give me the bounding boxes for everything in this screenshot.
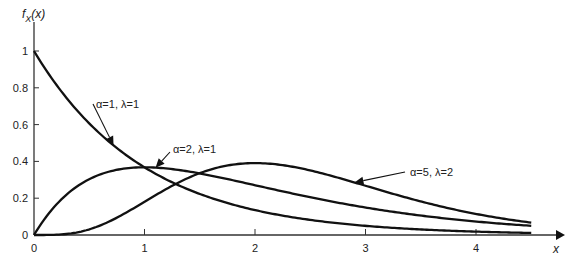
annotations: α=1, λ=1α=2, λ=1α=5, λ=2 xyxy=(93,98,453,185)
x-tick-label: 1 xyxy=(141,242,147,254)
x-tick-label: 3 xyxy=(362,242,368,254)
series-line-1 xyxy=(34,51,531,233)
y-tick-label: 0 xyxy=(22,229,28,241)
y-tick-label: 1 xyxy=(22,45,28,57)
y-ticks: 00.20.40.60.81 xyxy=(13,45,39,241)
x-tick-label: 4 xyxy=(473,242,479,254)
y-tick-label: 0.6 xyxy=(13,119,28,131)
annotation-label: α=5, λ=2 xyxy=(410,166,453,178)
y-axis-label: fX(x) xyxy=(22,7,45,24)
x-axis-label: x xyxy=(552,242,560,256)
y-tick-label: 0.2 xyxy=(13,192,28,204)
curves xyxy=(34,51,531,235)
x-axis-arrowhead xyxy=(556,230,565,240)
series-line-3 xyxy=(34,163,531,235)
x-tick-label: 0 xyxy=(31,242,37,254)
y-axis-label-arg: (x) xyxy=(31,7,45,21)
series-line-2 xyxy=(34,167,531,235)
axes xyxy=(34,22,565,240)
x-ticks: 01234 xyxy=(31,229,479,254)
y-tick-label: 0.4 xyxy=(13,155,28,167)
annotation-leader xyxy=(162,152,170,161)
x-tick-label: 2 xyxy=(252,242,258,254)
gamma-density-chart: 00.20.40.60.81 01234 α=1, λ=1α=2, λ=1α=5… xyxy=(0,0,574,262)
annotation-label: α=1, λ=1 xyxy=(96,98,139,110)
y-tick-label: 0.8 xyxy=(13,82,28,94)
annotation-label: α=2, λ=1 xyxy=(173,143,216,155)
annotation-leader xyxy=(363,172,405,181)
